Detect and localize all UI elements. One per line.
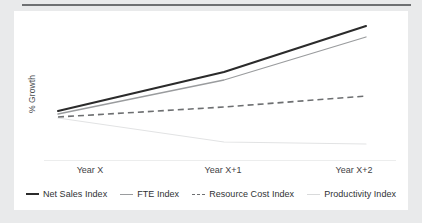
legend-label-net-sales-index: Net Sales Index — [43, 189, 107, 199]
series-line-net-sales-index — [58, 26, 366, 111]
series-lines — [58, 26, 366, 144]
x-tick-label-year-x-plus-1: Year X+1 — [205, 165, 242, 175]
x-tick-label-year-x-plus-2: Year X+2 — [336, 165, 373, 175]
legend-swatch-productivity-index — [307, 194, 320, 195]
series-line-productivity-index — [58, 118, 366, 144]
legend-swatch-resource-cost-index — [192, 194, 205, 195]
chart-area: % Growth Year X Year X+1 Year X+2 Net — [14, 11, 408, 210]
chart-card: % Growth Year X Year X+1 Year X+2 Net — [14, 11, 408, 210]
legend-label-fte-index: FTE Index — [137, 189, 179, 199]
legend-label-resource-cost-index: Resource Cost Index — [209, 189, 294, 199]
legend-swatch-net-sales-index — [26, 193, 39, 195]
chart-legend: Net Sales Index FTE Index Resource Cost … — [14, 189, 408, 199]
legend-item-productivity-index[interactable]: Productivity Index — [307, 189, 396, 199]
legend-item-fte-index[interactable]: FTE Index — [120, 189, 179, 199]
screenshot-root: % Growth Year X Year X+1 Year X+2 Net — [0, 0, 422, 223]
legend-swatch-fte-index — [120, 194, 133, 195]
legend-label-productivity-index: Productivity Index — [324, 189, 396, 199]
legend-item-resource-cost-index[interactable]: Resource Cost Index — [192, 189, 294, 199]
top-divider-rule — [22, 4, 411, 6]
x-axis-tick-labels: Year X Year X+1 Year X+2 — [14, 165, 408, 181]
x-tick-label-year-x: Year X — [77, 165, 104, 175]
legend-item-net-sales-index[interactable]: Net Sales Index — [26, 189, 107, 199]
